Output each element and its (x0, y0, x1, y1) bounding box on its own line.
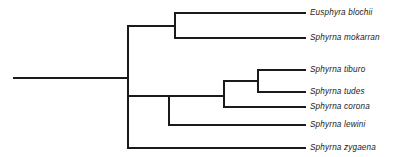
taxon-label-sphyrna_tudes: Sphyrna tudes (310, 88, 365, 96)
taxon-label-sphyrna_mokarran: Sphyrna mokarran (310, 34, 380, 42)
taxon-label-sphyrna_tiburo: Sphyrna tiburo (310, 66, 365, 74)
phylogenetic-tree-figure: Eusphyra blochiiSphyrna mokarranSphyrna … (0, 0, 407, 157)
taxon-label-sphyrna_lewini: Sphyrna lewini (310, 121, 365, 129)
taxon-label-eusphyra_blochii: Eusphyra blochii (310, 9, 372, 17)
taxon-label-sphyrna_zygaena: Sphyrna zygaena (310, 144, 376, 152)
taxon-label-sphyrna_corona: Sphyrna corona (310, 103, 370, 111)
cladogram-branch-lines (0, 0, 407, 157)
